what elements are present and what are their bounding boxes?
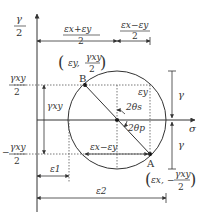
point-b-coord-close: ): [100, 53, 106, 72]
left-mid-gamma: γxy: [47, 101, 63, 111]
left-upper-den: 2: [14, 87, 20, 97]
dim-top-left-den: 2: [78, 36, 84, 46]
left-lower-num: γxy: [10, 142, 26, 152]
eps-y-inner-label: εy: [138, 87, 149, 97]
axis-gamma-den: 2: [16, 27, 22, 38]
dim-top-left-num: εx+εy: [64, 24, 92, 34]
dim-top-right-den: 2: [132, 31, 138, 41]
left-lower-sign: −: [2, 147, 10, 157]
axis-sigma-label: σ: [189, 123, 197, 134]
point-b-coord-x: εy,: [68, 58, 80, 68]
point-a-label: A: [146, 158, 155, 169]
axis-gamma-num: γ: [16, 13, 22, 24]
point-b-coord-open: (: [58, 53, 64, 72]
eps2-label: ε2: [96, 186, 107, 196]
point-a-coord-close: ): [190, 170, 196, 189]
angle-2theta-p: 2θp: [127, 123, 145, 133]
point-a-coord-x: εx,: [151, 175, 164, 185]
diameter-horizontal-label: εx−εy: [90, 142, 118, 152]
point-a-coord-num: γxy: [175, 169, 191, 179]
right-gamma-lower: γ: [178, 139, 184, 150]
dim-top-right-num: εx−εy: [121, 20, 149, 30]
left-upper-num: γxy: [10, 73, 26, 83]
eps1-label: ε1: [50, 164, 61, 174]
angle-2theta-s: 2θs: [125, 102, 142, 112]
angle-arc-2theta-s: [117, 110, 125, 114]
point-b-label: B: [79, 73, 86, 84]
point-a-coord-den: 2: [178, 182, 184, 192]
right-gamma-upper: γ: [178, 89, 184, 100]
mohr-circle-diagram: γ 2 σ εx+εy 2 εx−εy 2 ( εy, γxy 2 ) B γx…: [0, 0, 208, 215]
angle-arc-2theta-p: [124, 121, 127, 127]
point-b-coord-den: 2: [89, 64, 95, 74]
point-a-coord-sign: −: [167, 175, 175, 185]
left-lower-den: 2: [14, 156, 20, 166]
